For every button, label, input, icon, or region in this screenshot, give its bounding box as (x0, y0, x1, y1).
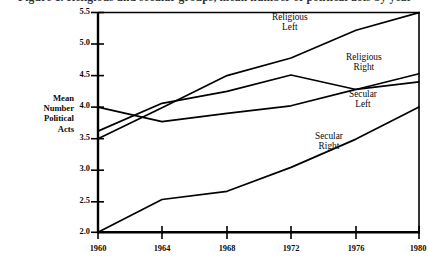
figure-caption-cropped: Figure 1. Religious and secular groups, … (0, 0, 428, 7)
y-tick-label-2-0: 2.0 (56, 228, 90, 236)
y-tick-label-2-5: 2.5 (56, 197, 90, 205)
y-axis-title-line-4: Acts (6, 124, 74, 134)
y-tick-label-5-0: 5.0 (56, 39, 90, 47)
data-series-group (98, 13, 419, 233)
series-label-secular-left-line-2: Left (349, 99, 377, 109)
series-label-secular-left: Secular Left (349, 89, 377, 110)
figure-caption-text: Figure 1. Religious and secular groups, … (18, 0, 412, 3)
y-tick-label-3-0: 3.0 (56, 165, 90, 173)
figure-line-chart: Figure 1. Religious and secular groups, … (0, 0, 428, 261)
series-label-religious-right-line-1: Religious (346, 52, 382, 62)
x-tick-label-1960: 1960 (76, 245, 120, 253)
x-tick-label-1972: 1972 (269, 245, 313, 253)
series-label-secular-right-line-1: Secular (315, 131, 343, 141)
y-tick-label-4-5: 4.5 (56, 71, 90, 79)
series-label-religious-left-line-1: Religious (272, 12, 308, 22)
series-label-secular-left-line-1: Secular (349, 89, 377, 99)
x-tick-label-1964: 1964 (140, 245, 184, 253)
x-tick-label-1976: 1976 (334, 245, 378, 253)
x-tick-label-1968: 1968 (205, 245, 249, 253)
axis-frame (98, 12, 420, 233)
series-label-secular-right: Secular Right (315, 131, 343, 152)
y-tick-label-5-5: 5.5 (56, 8, 90, 16)
series-label-religious-left: Religious Left (272, 12, 308, 33)
y-axis-title: Mean Number Political Acts (6, 93, 74, 134)
y-tick-label-4-0: 4.0 (56, 102, 90, 110)
series-line-religious-left (98, 13, 419, 139)
x-tick-label-1980: 1980 (396, 245, 428, 253)
y-tick-label-3-5: 3.5 (56, 134, 90, 142)
series-line-secular-right (98, 107, 419, 232)
series-label-religious-right-line-2: Right (346, 62, 382, 72)
series-label-secular-right-line-2: Right (315, 141, 343, 151)
y-axis-title-line-3: Political (6, 113, 74, 123)
series-label-religious-right: Religious Right (346, 52, 382, 73)
series-label-religious-left-line-2: Left (272, 22, 308, 32)
